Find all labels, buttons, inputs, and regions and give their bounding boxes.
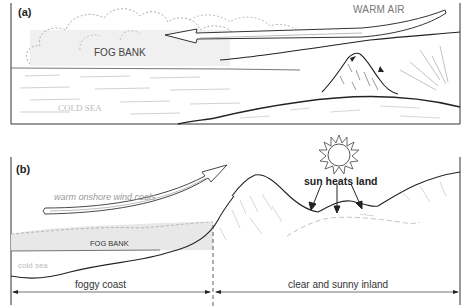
cold-sea-label-b: cold sea <box>18 262 48 270</box>
warm-wind-label: warm onshore wind cools <box>54 193 156 202</box>
foggy-coast-label: foggy coast <box>75 280 126 290</box>
sun-heats-land-label: sun heats land <box>304 176 378 187</box>
diagram-canvas <box>0 0 469 308</box>
sun-icon <box>319 135 359 174</box>
panel-b-label: (b) <box>16 164 30 175</box>
cold-sea-label-a: COLD SEA <box>58 104 102 113</box>
warm-air-label: WARM AIR <box>353 5 405 15</box>
panel-a-label: (a) <box>18 7 31 18</box>
fog-bank-label-a: FOG BANK <box>94 48 146 58</box>
clear-inland-label: clear and sunny inland <box>288 280 388 290</box>
fog-bank-label-b: FOG BANK <box>90 240 129 248</box>
